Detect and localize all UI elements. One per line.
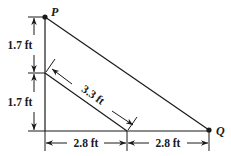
point-q-label: Q [216,124,225,138]
point-p-label: P [51,5,59,19]
dimension-diagonal-label: 3.3 ft [80,83,107,107]
left-dimension-ticks [28,17,45,131]
inner-diagonal [45,73,127,131]
dimension-bottom-left-label: 2.8 ft [74,137,99,149]
bottom-dimension-ticks [45,131,209,151]
diagram-canvas: P Q 1.7 ft 1.7 ft 2.8 ft 2.8 ft [0,0,231,156]
structure [45,17,209,131]
outer-diagonal-pq [45,17,209,130]
dimension-left-upper-label: 1.7 ft [8,39,33,51]
dimension-bottom-right-label: 2.8 ft [156,137,181,149]
dimension-left-lower-label: 1.7 ft [8,96,33,108]
